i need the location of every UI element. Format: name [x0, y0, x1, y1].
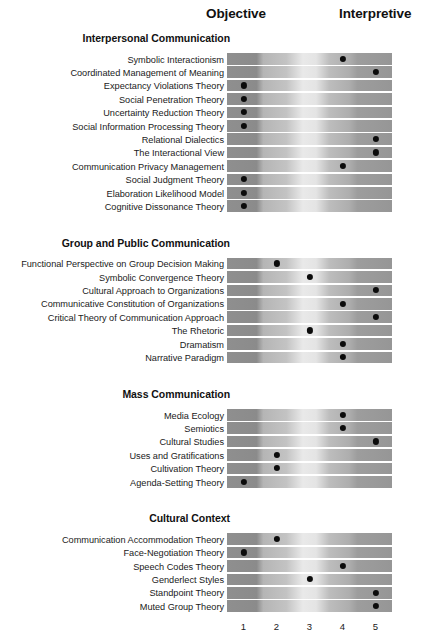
- x-axis-tick: 5: [373, 621, 378, 632]
- axis-header-group: Objective Interpretive: [0, 6, 427, 28]
- theory-label: Media Ecology: [164, 410, 224, 422]
- objective-interpretive-gradient-bar: [227, 547, 392, 559]
- theory-position-dot: [339, 341, 345, 347]
- theory-row: Functional Perspective on Group Decision…: [0, 258, 427, 271]
- objective-interpretive-gradient-bar: [227, 325, 392, 337]
- theory-position-dot: [306, 274, 312, 280]
- theory-position-dot: [339, 163, 345, 169]
- theory-position-dot: [240, 96, 246, 102]
- section-title: Group and Public Communication: [62, 237, 230, 249]
- theory-row: Uses and Gratifications: [0, 449, 427, 462]
- objective-interpretive-gradient-bar: [227, 338, 392, 350]
- theory-label: Speech Codes Theory: [133, 561, 224, 573]
- section-title: Cultural Context: [149, 512, 230, 524]
- theory-label: Symbolic Convergence Theory: [99, 272, 224, 284]
- theory-row: Communication Privacy Management: [0, 160, 427, 173]
- objective-interpretive-gradient-bar: [227, 147, 392, 159]
- theory-row: Dramatism: [0, 338, 427, 351]
- theory-row: Face-Negotiation Theory: [0, 547, 427, 560]
- theory-row: Narrative Paradigm: [0, 352, 427, 365]
- theory-label: Communicative Constitution of Organizati…: [41, 298, 224, 310]
- theory-label: Muted Group Theory: [140, 601, 224, 613]
- theory-row: Communicative Constitution of Organizati…: [0, 298, 427, 311]
- theory-position-dot: [240, 203, 246, 209]
- theory-position-dot: [372, 149, 378, 155]
- theory-position-dot: [273, 452, 279, 458]
- theory-label: Cultural Studies: [159, 436, 224, 448]
- objective-interpretive-gradient-bar: [227, 476, 392, 488]
- theory-label: Communication Accommodation Theory: [62, 534, 224, 546]
- x-axis-tick: 4: [340, 621, 345, 632]
- objective-interpretive-gradient-bar: [227, 200, 392, 212]
- theory-row: Speech Codes Theory: [0, 560, 427, 573]
- x-axis-tick-labels: 12345: [227, 621, 392, 634]
- objective-interpretive-gradient-bar: [227, 560, 392, 572]
- theory-position-dot: [273, 536, 279, 542]
- theory-row: Cultural Approach to Organizations: [0, 285, 427, 298]
- objective-interpretive-gradient-bar: [227, 409, 392, 421]
- theory-row: Expectancy Violations Theory: [0, 80, 427, 93]
- theory-position-dot: [306, 327, 312, 333]
- theory-row: Communication Accommodation Theory: [0, 533, 427, 546]
- theory-position-dot: [273, 465, 279, 471]
- objective-interpretive-gradient-bar: [227, 298, 392, 310]
- theory-row: Semiotics: [0, 422, 427, 435]
- theory-position-dot: [240, 190, 246, 196]
- theory-label: Communication Privacy Management: [72, 161, 224, 173]
- theory-label: Cultural Approach to Organizations: [82, 285, 224, 297]
- theory-label: Critical Theory of Communication Approac…: [48, 312, 224, 324]
- objective-interpretive-gradient-bar: [227, 133, 392, 145]
- theory-label: Face-Negotiation Theory: [124, 547, 225, 559]
- theory-row: The Rhetoric: [0, 325, 427, 338]
- theory-row: Elaboration Likelihood Model: [0, 187, 427, 200]
- theory-label: Agenda-Setting Theory: [130, 477, 224, 489]
- theory-position-dot: [240, 479, 246, 485]
- theory-label: Narrative Paradigm: [145, 352, 224, 364]
- theory-position-dot: [339, 56, 345, 62]
- interpretive-axis-header: Interpretive: [339, 6, 411, 21]
- theory-row: Genderlect Styles: [0, 574, 427, 587]
- objective-interpretive-gradient-bar: [227, 574, 392, 586]
- objective-axis-header: Objective: [206, 6, 266, 21]
- theory-row: Agenda-Setting Theory: [0, 476, 427, 489]
- theory-position-dot: [240, 549, 246, 555]
- theory-position-dot: [372, 438, 378, 444]
- theory-row: Social Information Processing Theory: [0, 120, 427, 133]
- theory-row: Cultural Studies: [0, 436, 427, 449]
- theory-label: Genderlect Styles: [152, 574, 224, 586]
- theory-row: Uncertainty Reduction Theory: [0, 107, 427, 120]
- theory-row: Cultivation Theory: [0, 463, 427, 476]
- x-axis-tick: 3: [307, 621, 312, 632]
- theory-position-dot: [306, 576, 312, 582]
- theory-label: Uses and Gratifications: [129, 450, 224, 462]
- theory-row: Muted Group Theory: [0, 600, 427, 613]
- objective-interpretive-gradient-bar: [227, 600, 392, 612]
- x-axis-tick: 2: [274, 621, 279, 632]
- objective-interpretive-gradient-bar: [227, 436, 392, 448]
- objective-interpretive-gradient-bar: [227, 187, 392, 199]
- objective-interpretive-gradient-bar: [227, 271, 392, 283]
- objective-interpretive-gradient-bar: [227, 66, 392, 78]
- theory-position-dot: [339, 412, 345, 418]
- theory-row: Critical Theory of Communication Approac…: [0, 311, 427, 324]
- theory-label: Functional Perspective on Group Decision…: [21, 258, 224, 270]
- section-title: Interpersonal Communication: [83, 32, 230, 44]
- theory-row: Standpoint Theory: [0, 587, 427, 600]
- theory-label: Cognitive Dissonance Theory: [105, 201, 224, 213]
- objective-interpretive-gradient-bar: [227, 449, 392, 461]
- theory-position-dot: [240, 176, 246, 182]
- objective-interpretive-gradient-bar: [227, 463, 392, 475]
- theory-position-dot: [339, 563, 345, 569]
- theory-position-dot: [273, 260, 279, 266]
- objective-interpretive-gradient-bar: [227, 533, 392, 545]
- theory-position-dot: [372, 603, 378, 609]
- theory-position-dot: [339, 425, 345, 431]
- theory-position-dot: [372, 287, 378, 293]
- theory-row: Symbolic Convergence Theory: [0, 271, 427, 284]
- section-title: Mass Communication: [122, 388, 230, 400]
- theory-label: Social Judgment Theory: [126, 174, 224, 186]
- theory-position-dot: [339, 301, 345, 307]
- theory-label: The Rhetoric: [172, 325, 224, 337]
- theory-label: Symbolic Interactionism: [127, 54, 224, 66]
